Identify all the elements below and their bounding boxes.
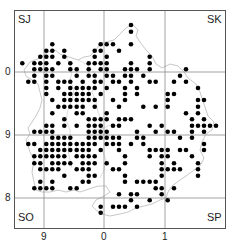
y-tick-9: 9 <box>5 130 11 140</box>
y-tick-8: 8 <box>5 193 11 203</box>
y-tick-0: 0 <box>5 67 11 77</box>
x-tick-1: 1 <box>162 232 168 242</box>
corner-label-so: SO <box>18 212 34 223</box>
x-tick-0: 0 <box>101 232 107 242</box>
corner-label-sk: SK <box>207 14 222 25</box>
distribution-map: SJ SK SO SP 9 0 1 0 9 8 <box>0 0 233 244</box>
map-frame <box>14 10 226 229</box>
corner-label-sp: SP <box>207 212 222 223</box>
corner-label-sj: SJ <box>18 14 31 25</box>
x-tick-9: 9 <box>41 232 47 242</box>
